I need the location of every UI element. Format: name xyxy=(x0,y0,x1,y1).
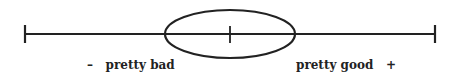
minus-sign: – xyxy=(87,58,93,72)
plus-sign: + xyxy=(386,58,396,72)
positive-pole-label: pretty good + xyxy=(296,58,396,72)
negative-pole-label: – pretty bad xyxy=(87,58,175,72)
positive-pole-text: pretty good xyxy=(296,58,373,72)
negative-pole-text: pretty bad xyxy=(106,58,175,72)
